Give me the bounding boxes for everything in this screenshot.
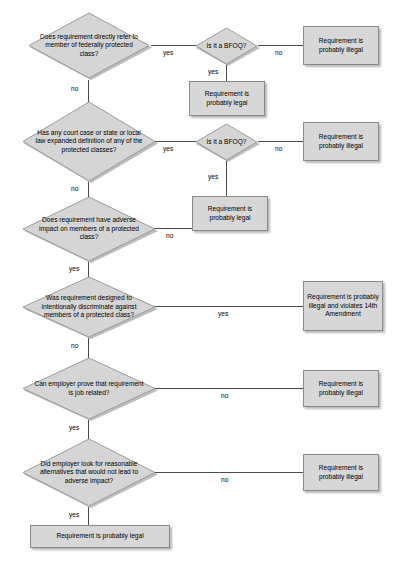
terminal-probably-illegal-2[interactable]: Requirement is probably illegal — [303, 122, 379, 161]
decision-intentional-discrimination[interactable]: Was requirement designed to intentionall… — [22, 276, 156, 338]
decision-adverse-impact[interactable]: Does requirement have adverse impact on … — [22, 196, 156, 262]
terminal-probably-illegal-14th-amendment[interactable]: Requirement is probably illegal and viol… — [303, 281, 383, 331]
edge-label-d2-yes: yes — [163, 145, 173, 153]
decision-is-it-a-bfoq-2[interactable]: Is it a BFOQ? — [195, 123, 258, 161]
terminal-label: Requirement is probably illegal — [307, 464, 375, 481]
edge-label-bfoq1-no: no — [275, 49, 282, 57]
edge-label-d5-yes: yes — [69, 424, 79, 432]
diamond-shape — [195, 27, 258, 65]
edge-label-d6-yes: yes — [69, 511, 79, 519]
edge-label-d1-no: no — [71, 85, 78, 93]
terminal-probably-illegal-1[interactable]: Requirement is probably illegal — [303, 26, 379, 65]
edge-label-d4-no: no — [71, 342, 78, 350]
diamond-shape — [22, 196, 156, 262]
terminal-probably-legal-final[interactable]: Requirement is probably legal — [30, 525, 170, 548]
flowchart-canvas: Does requirement directly refer to membe… — [0, 0, 401, 563]
decision-law-expanded-definition[interactable]: Has any court case or state or local law… — [22, 101, 156, 182]
terminal-label: Requirement is probably legal — [56, 532, 143, 541]
decision-reasonable-alternatives[interactable]: Did employer look for reasonable alterna… — [22, 438, 156, 507]
diamond-shape — [195, 123, 258, 161]
edge-label-d3-yes: yes — [69, 265, 79, 273]
terminal-probably-legal-2[interactable]: Requirement is probably legal — [192, 196, 268, 231]
edge-label-d1-yes: yes — [163, 49, 173, 57]
terminal-label: Requirement is probably illegal — [307, 133, 375, 150]
terminal-label: Requirement is probably illegal — [307, 380, 375, 397]
edge-label-d5-no: no — [221, 392, 228, 400]
diamond-shape — [28, 12, 150, 79]
terminal-label: Requirement is probably legal — [193, 90, 261, 107]
diamond-shape — [22, 438, 156, 507]
terminal-label: Requirement is probably legal — [196, 205, 264, 222]
edge-label-d6-no: no — [221, 476, 228, 484]
edge-label-d4-yes: yes — [218, 310, 228, 318]
terminal-probably-legal-1[interactable]: Requirement is probably legal — [189, 81, 265, 116]
edge-label-d3-no: no — [166, 232, 173, 240]
decision-directly-refers-protected-class[interactable]: Does requirement directly refer to membe… — [28, 12, 150, 79]
diamond-shape — [22, 101, 156, 182]
terminal-probably-illegal-4[interactable]: Requirement is probably illegal — [303, 454, 379, 491]
diamond-shape — [22, 357, 156, 420]
terminal-label: Requirement is probably illegal — [307, 37, 375, 54]
edge-label-bfoq1-yes: yes — [208, 68, 218, 76]
decision-is-it-a-bfoq-1[interactable]: Is it a BFOQ? — [195, 27, 258, 65]
edge-label-bfoq2-no: no — [275, 145, 282, 153]
edge-label-d2-no: no — [71, 185, 78, 193]
diamond-shape — [22, 276, 156, 338]
decision-job-related[interactable]: Can employer prove that requirement is j… — [22, 357, 156, 420]
edge-label-bfoq2-yes: yes — [208, 173, 218, 181]
terminal-probably-illegal-3[interactable]: Requirement is probably illegal — [303, 370, 379, 407]
terminal-label: Requirement is probably illegal and viol… — [307, 293, 379, 319]
